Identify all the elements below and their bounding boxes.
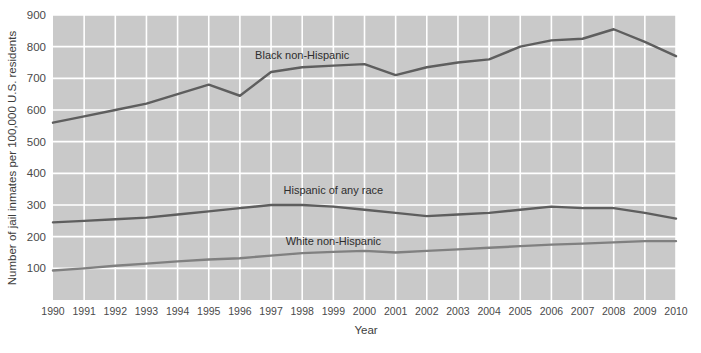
y-tick-label: 900 — [27, 9, 46, 21]
x-tick-label: 1990 — [41, 305, 65, 317]
x-tick-label: 2007 — [571, 305, 595, 317]
x-tick-label: 1991 — [72, 305, 96, 317]
series-label-white-non-hispanic: White non-Hispanic — [286, 235, 382, 247]
x-tick-label: 1993 — [135, 305, 159, 317]
x-tick-label: 2001 — [384, 305, 408, 317]
x-tick-label: 1994 — [166, 305, 190, 317]
x-tick-label: 2005 — [509, 305, 533, 317]
x-tick-label: 2004 — [477, 305, 501, 317]
y-tick-label: 500 — [27, 136, 46, 148]
gridlines — [53, 15, 676, 300]
y-tick-label: 400 — [27, 167, 46, 179]
x-tick-label: 2000 — [353, 305, 377, 317]
x-tick-label: 2010 — [664, 305, 688, 317]
x-tick-label: 2003 — [446, 305, 470, 317]
x-tick-label: 1992 — [104, 305, 128, 317]
y-tick-label: 300 — [27, 199, 46, 211]
y-tick-label: 600 — [27, 104, 46, 116]
chart-figure: 100200300400500600700800900 199019911992… — [0, 0, 701, 353]
y-axis-tick-labels: 100200300400500600700800900 — [27, 9, 46, 274]
y-tick-label: 700 — [27, 72, 46, 84]
x-tick-label: 2002 — [415, 305, 439, 317]
y-tick-label: 800 — [27, 41, 46, 53]
series-label-hispanic-of-any-race: Hispanic of any race — [284, 184, 384, 196]
x-axis-title: Year — [354, 324, 377, 336]
series-label-black-non-hispanic: Black non-Hispanic — [255, 49, 350, 61]
y-tick-label: 200 — [27, 231, 46, 243]
x-tick-label: 2009 — [633, 305, 657, 317]
y-axis-title: Number of jail inmates per 100,000 U.S. … — [6, 31, 18, 286]
x-tick-label: 1996 — [228, 305, 252, 317]
line-chart: 100200300400500600700800900 199019911992… — [0, 0, 701, 353]
x-tick-label: 1997 — [259, 305, 283, 317]
x-tick-label: 1995 — [197, 305, 221, 317]
x-tick-label: 1998 — [291, 305, 315, 317]
x-tick-label: 1999 — [322, 305, 346, 317]
x-axis-tick-labels: 1990199119921993199419951996199719981999… — [41, 305, 688, 317]
y-tick-label: 100 — [27, 262, 46, 274]
x-tick-label: 2006 — [540, 305, 564, 317]
x-tick-label: 2008 — [602, 305, 626, 317]
